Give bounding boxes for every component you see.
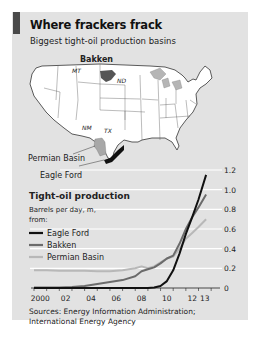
y-tick-label: 0.6: [224, 225, 236, 234]
x-tick-label: 10: [162, 294, 172, 303]
legend-label-permian: Permian Basin: [47, 253, 104, 262]
sources: Sources: Energy Information Administrati…: [29, 307, 195, 327]
legend-title: Tight-oil production: [29, 191, 130, 201]
legend-label-eagle-ford: Eagle Ford: [47, 229, 89, 238]
y-axis-labels: 00.20.40.60.81.01.2: [224, 166, 236, 293]
sources-line-1: Sources: Energy Information Administrati…: [29, 307, 195, 317]
legend: Tight-oil production Barrels per day, m,…: [29, 191, 130, 262]
us-map: Bakken MT ND NM TX Permian Basin Eagle F…: [28, 55, 212, 180]
map-label-mt: MT: [72, 67, 82, 74]
legend-units: Barrels per day, m,: [29, 206, 96, 214]
map-label-tx: TX: [104, 127, 113, 134]
sources-line-2: International Energy Agency: [29, 317, 195, 327]
x-tick-label: 13: [200, 294, 210, 303]
map-label-nm: NM: [82, 124, 92, 131]
permian-region: [94, 138, 106, 156]
y-tick-label: 0.4: [224, 245, 236, 254]
legend-label-bakken: Bakken: [47, 241, 76, 250]
y-tick-label: 0.8: [224, 205, 236, 214]
y-tick-label: 0: [224, 284, 229, 293]
x-tick-label: 06: [111, 294, 121, 303]
map-label-nd: ND: [117, 77, 126, 84]
y-tick-label: 0.2: [224, 264, 236, 273]
x-tick-label: 08: [137, 294, 147, 303]
map-label-permian: Permian Basin: [28, 154, 85, 163]
x-tick-label: 2000: [31, 294, 50, 303]
map-label-eagle-ford: Eagle Ford: [40, 171, 82, 180]
y-tick-label: 1.2: [224, 166, 236, 175]
y-tick-label: 1.0: [224, 186, 236, 195]
x-tick-label: 12: [187, 294, 197, 303]
legend-units-from: from:: [29, 216, 48, 224]
x-axis: 200002040608101213: [31, 288, 220, 303]
x-tick-label: 02: [61, 294, 71, 303]
map-label-bakken: Bakken: [80, 55, 113, 64]
x-tick-label: 04: [86, 294, 96, 303]
map-and-chart: Bakken MT ND NM TX Permian Basin Eagle F…: [0, 0, 261, 343]
